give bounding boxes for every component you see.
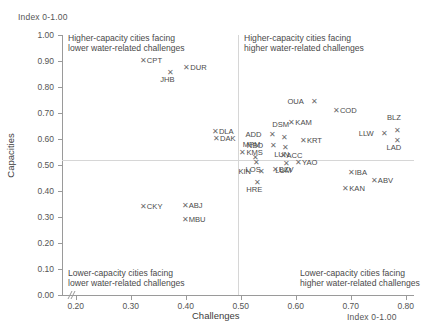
x-tick-mark	[351, 296, 352, 300]
data-point-label: KAN	[349, 185, 365, 193]
cross-marker-icon: ✕	[381, 131, 387, 137]
quadrant-note-bottom-left: Lower-capacity cities facing lower water…	[68, 268, 185, 289]
cross-marker-icon: ✕	[288, 120, 294, 126]
y-tick-mark	[58, 243, 62, 244]
cross-marker-icon: ✕	[239, 150, 245, 156]
x-tick-label: 0.80	[389, 301, 423, 311]
data-point-label: YAO	[302, 159, 317, 167]
cross-marker-icon: ✕	[295, 160, 301, 166]
data-point-label: COD	[340, 107, 357, 115]
y-tick-label: 0.40	[20, 186, 54, 196]
cross-marker-icon: ✕	[348, 170, 354, 176]
cross-marker-icon: ✕	[140, 58, 146, 64]
x-tick-label: 0.60	[279, 301, 313, 311]
y-tick-label: 0.80	[20, 82, 54, 92]
x-tick-mark	[131, 296, 132, 300]
data-point-label: BLZ	[387, 114, 401, 122]
data-point-label: MPM	[243, 141, 261, 149]
data-point-label: KIN	[238, 168, 251, 176]
quadrant-note-top-right: Higher-capacity cities facing higher wat…	[244, 33, 364, 54]
y-tick-label: 0.30	[20, 212, 54, 222]
reference-line-vertical	[238, 35, 239, 295]
x-tick-label: 0.50	[224, 301, 258, 311]
data-point-label: DUR	[190, 64, 206, 72]
data-point-label: HRE	[246, 186, 262, 194]
y-tick-mark	[58, 61, 62, 62]
data-point-label: IBA	[355, 169, 367, 177]
data-point-label: CKY	[147, 203, 163, 211]
y-tick-label: 0.90	[20, 56, 54, 66]
data-point-label: BZV	[279, 166, 294, 174]
y-tick-label: 0.20	[20, 238, 54, 248]
cross-marker-icon: ✕	[272, 167, 278, 173]
x-tick-label: 0.20	[59, 301, 93, 311]
y-tick-label: 1.00	[20, 30, 54, 40]
cross-marker-icon: ✕	[269, 132, 275, 138]
data-point-label: DAK	[220, 135, 236, 143]
data-point-label: CPT	[147, 57, 162, 65]
data-point-label: OUA	[287, 98, 303, 106]
y-axis-line	[62, 35, 63, 296]
y-axis-unit-label: Index 0-1.00	[18, 12, 68, 22]
data-point-label: ABJ	[189, 202, 203, 210]
cross-marker-icon: ✕	[270, 143, 276, 149]
y-tick-mark	[58, 295, 62, 296]
data-point-label: ADD	[246, 131, 262, 139]
x-axis-title: Challenges	[192, 310, 240, 321]
cross-marker-icon: ✕	[333, 108, 339, 114]
data-point-label: JHB	[160, 76, 174, 84]
cross-marker-icon: ✕	[213, 136, 219, 142]
y-tick-mark	[58, 87, 62, 88]
x-tick-mark	[241, 296, 242, 300]
y-tick-label: 0.60	[20, 134, 54, 144]
y-tick-mark	[58, 217, 62, 218]
data-point-label: MBU	[189, 216, 206, 224]
y-tick-label: 0.50	[20, 160, 54, 170]
data-point-label: KRT	[307, 137, 322, 145]
cross-marker-icon: ✕	[140, 204, 146, 210]
cross-marker-icon: ✕	[182, 203, 188, 209]
data-point-label: KAM	[295, 119, 311, 127]
y-tick-mark	[58, 113, 62, 114]
y-tick-label: 0.00	[20, 290, 54, 300]
data-point-label: ABV	[378, 177, 393, 185]
y-tick-label: 0.70	[20, 108, 54, 118]
y-tick-label: 0.10	[20, 264, 54, 274]
cross-marker-icon: ✕	[281, 135, 287, 141]
quadrant-note-bottom-right: Lower-capacity cities facing higher wate…	[300, 268, 420, 289]
y-tick-mark	[58, 191, 62, 192]
quadrant-note-top-left: Higher-capacity cities facing lower wate…	[68, 33, 185, 54]
x-tick-mark	[296, 296, 297, 300]
y-axis-title: Capacities	[5, 133, 16, 177]
data-point-label: LLW	[359, 130, 374, 138]
reference-line-horizontal	[62, 160, 414, 161]
cross-marker-icon: ✕	[182, 217, 188, 223]
cross-marker-icon: ✕	[342, 186, 348, 192]
y-tick-mark	[58, 269, 62, 270]
data-point-label: DSM	[272, 121, 289, 129]
cross-marker-icon: ✕	[300, 138, 306, 144]
cross-marker-icon: ✕	[280, 153, 286, 159]
y-tick-mark	[58, 165, 62, 166]
x-axis-line	[62, 295, 414, 296]
cross-marker-icon: ✕	[371, 178, 377, 184]
cross-marker-icon: ✕	[258, 169, 264, 175]
x-axis-unit-label: Index 0-1.00	[347, 312, 397, 322]
x-tick-mark	[186, 296, 187, 300]
cross-marker-icon: ✕	[394, 128, 400, 134]
cross-marker-icon: ✕	[183, 65, 189, 71]
x-tick-mark	[406, 296, 407, 300]
x-tick-label: 0.70	[334, 301, 368, 311]
x-tick-label: 0.40	[169, 301, 203, 311]
cross-marker-icon: ✕	[311, 99, 317, 105]
scatter-plot: Index 0-1.00 Index 0-1.00 Capacities Cha…	[0, 0, 423, 331]
data-point-label: LAD	[387, 144, 402, 152]
x-tick-mark	[76, 296, 77, 300]
x-tick-label: 0.30	[114, 301, 148, 311]
y-tick-mark	[58, 35, 62, 36]
y-tick-mark	[58, 139, 62, 140]
